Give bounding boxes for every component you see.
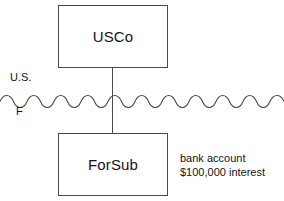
jurisdiction-label-foreign: F [16, 106, 23, 117]
diagram-canvas: USCo U.S. F ForSub bank account $100,000… [0, 0, 284, 201]
entity-box-forsub: ForSub [58, 133, 168, 196]
annotation-line-1: bank account [180, 152, 265, 166]
wavy-border-line-icon [0, 88, 284, 110]
annotation-block: bank account $100,000 interest [180, 152, 265, 179]
jurisdiction-label-domestic: U.S. [10, 72, 31, 83]
entity-label-usco: USCo [93, 29, 133, 44]
entity-label-forsub: ForSub [88, 157, 138, 172]
annotation-line-2: $100,000 interest [180, 166, 265, 180]
entity-box-usco: USCo [58, 5, 168, 68]
